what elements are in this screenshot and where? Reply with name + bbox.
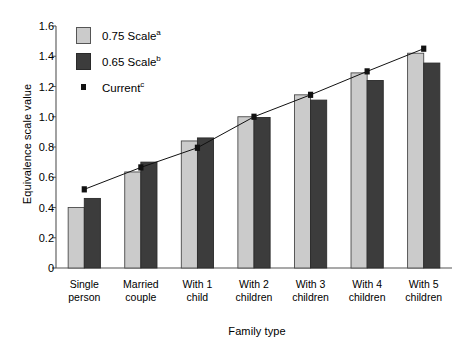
- x-category-label: With 4children: [339, 278, 396, 303]
- legend-marker-square-icon: [76, 84, 91, 90]
- current-marker: [308, 92, 313, 98]
- bar-065-scale: [197, 138, 213, 268]
- x-category-label-line: With 1: [169, 278, 226, 291]
- y-tick-label: 0.6: [24, 171, 54, 183]
- x-category-label-line: children: [226, 291, 283, 304]
- bar-065-scale: [424, 63, 440, 268]
- x-category-label-line: Married: [113, 278, 170, 291]
- y-tick-label: 1.2: [24, 81, 54, 93]
- legend-item-065-scale: 0.65 Scaleb: [76, 48, 161, 74]
- current-marker: [138, 164, 143, 170]
- x-category-label: With 1child: [169, 278, 226, 303]
- y-tick-label: 1.0: [24, 111, 54, 123]
- y-tick-label: 0.4: [24, 202, 54, 214]
- bar-075-scale: [125, 172, 141, 268]
- bar-065-scale: [254, 118, 270, 268]
- x-category-label: Marriedcouple: [113, 278, 170, 303]
- bar-065-scale: [84, 198, 100, 268]
- current-marker: [421, 46, 426, 52]
- x-category-label: Singleperson: [56, 278, 113, 303]
- y-tick-label: 0.8: [24, 141, 54, 153]
- legend-label-current: Currentc: [102, 80, 144, 94]
- legend-label-075-scale: 0.75 Scalea: [102, 28, 161, 42]
- legend-item-075-scale: 0.75 Scalea: [76, 22, 161, 48]
- x-category-label: With 2children: [226, 278, 283, 303]
- current-marker: [251, 114, 256, 120]
- x-category-label-line: child: [169, 291, 226, 304]
- current-marker: [82, 186, 87, 192]
- x-category-label-line: With 4: [339, 278, 396, 291]
- x-category-label: With 5children: [395, 278, 452, 303]
- current-marker: [365, 68, 370, 74]
- y-tick-label: 1.6: [24, 20, 54, 32]
- bar-075-scale: [238, 117, 254, 268]
- bar-075-scale: [408, 53, 424, 268]
- equivalence-scale-chart: Equivalence scale value 00.20.40.60.81.0…: [0, 0, 459, 350]
- bar-075-scale: [181, 141, 197, 268]
- x-category-label-line: Single: [56, 278, 113, 291]
- bar-065-scale: [141, 162, 157, 268]
- legend-swatch-dark-icon: [76, 53, 91, 70]
- bar-075-scale: [68, 208, 84, 269]
- x-category-label-line: children: [339, 291, 396, 304]
- y-axis-tick-labels: 00.20.40.60.81.01.21.41.6: [18, 0, 54, 350]
- legend-item-current: Currentc: [76, 74, 161, 100]
- x-category-label: With 3children: [282, 278, 339, 303]
- bar-065-scale: [367, 80, 383, 268]
- y-tick-label: 1.4: [24, 50, 54, 62]
- x-category-label-line: With 5: [395, 278, 452, 291]
- x-category-label-line: With 2: [226, 278, 283, 291]
- bar-065-scale: [311, 100, 327, 268]
- x-axis-title: Family type: [55, 325, 459, 337]
- x-category-label-line: person: [56, 291, 113, 304]
- y-tick-label: 0: [24, 262, 54, 274]
- x-category-label-line: With 3: [282, 278, 339, 291]
- legend-label-065-scale: 0.65 Scaleb: [102, 54, 161, 68]
- bar-075-scale: [294, 95, 310, 268]
- x-category-label-line: children: [395, 291, 452, 304]
- y-tick-label: 0.2: [24, 232, 54, 244]
- bar-075-scale: [351, 73, 367, 268]
- x-category-label-line: children: [282, 291, 339, 304]
- x-category-label-line: couple: [113, 291, 170, 304]
- current-marker: [195, 145, 200, 151]
- legend-swatch-light-icon: [76, 27, 91, 44]
- chart-legend: 0.75 Scalea 0.65 Scaleb Currentc: [76, 22, 161, 100]
